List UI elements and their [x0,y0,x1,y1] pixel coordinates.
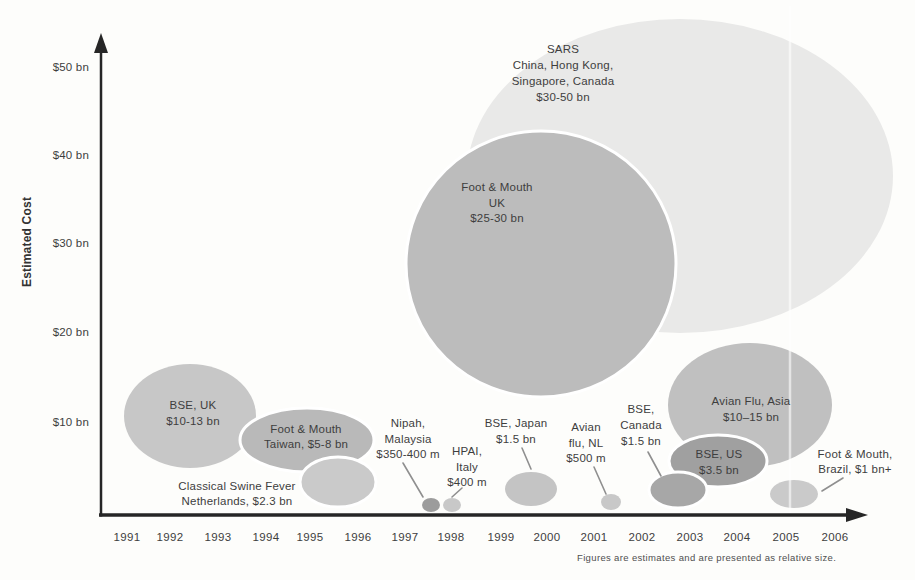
y-tick-40: $40 bn [53,149,89,161]
label-avian_nl: Avianflu, NL$500 m [566,421,606,464]
y-tick-20: $20 bn [53,326,89,338]
figure-canvas: Estimated Cost BSE, UK$10-13 bnFoot & Mo… [0,0,915,580]
y-tick-50: $50 bn [53,61,89,73]
x-tick-2002: 2002 [629,531,656,543]
x-tick-2000: 2000 [534,531,561,543]
figure-footnote: Figures are estimates and are presented … [577,552,836,563]
x-tick-1991: 1991 [114,531,141,543]
bubble-chart: BSE, UK$10-13 bnFoot & MouthTaiwan, $5-8… [0,0,915,580]
x-tick-2004: 2004 [724,531,751,543]
y-tick-10: $10 bn [53,416,89,428]
x-tick-1996: 1996 [345,531,372,543]
x-tick-1997: 1997 [392,531,419,543]
x-tick-1998: 1998 [438,531,465,543]
y-axis-arrow [94,33,108,53]
x-tick-1995: 1995 [297,531,324,543]
leader-avian_nl [594,467,606,494]
bubble-nipah [422,498,440,512]
x-tick-1994: 1994 [253,531,280,543]
label-fmd_brazil: Foot & Mouth,Brazil, $1 bn+ [818,448,893,475]
leader-bse_canada [648,452,661,476]
bubble-csf_nl [300,457,376,507]
leader-bse_japan [522,448,531,469]
label-csf_nl: Classical Swine FeverNetherlands, $2.3 b… [178,480,295,507]
x-tick-2001: 2001 [581,531,608,543]
leader-fmd_brazil [822,478,843,491]
label-bse_japan: BSE, Japan$1.5 bn [485,417,548,445]
x-axis-arrow [846,508,868,522]
x-tick-1999: 1999 [488,531,515,543]
bubble-fmd_uk [406,131,676,397]
x-tick-2006: 2006 [822,531,849,543]
leader-hpai [452,488,462,497]
bubble-hpai [443,498,461,512]
label-hpai: HPAI,Italy$400 m [447,445,487,488]
y-tick-30: $30 bn [53,237,89,249]
x-tick-2003: 2003 [677,531,704,543]
label-nipah: Nipah,Malaysia$350-400 m [376,417,439,460]
bubble-avian_nl [601,494,621,510]
x-tick-1992: 1992 [157,531,184,543]
leader-nipah [403,463,423,497]
label-bse_canada: BSE,Canada$1.5 bn [620,403,662,447]
x-tick-2005: 2005 [773,531,800,543]
bubble-fmd_brazil [770,480,818,508]
x-tick-1993: 1993 [205,531,232,543]
bubble-bse_canada [649,472,707,508]
bubble-bse_japan [505,472,557,506]
